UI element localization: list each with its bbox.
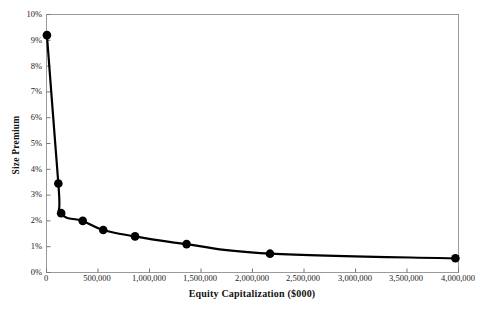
data-point — [78, 217, 87, 226]
data-point — [54, 179, 63, 188]
data-point — [131, 232, 140, 241]
series-line-size-premium — [47, 35, 456, 258]
data-point — [182, 240, 191, 249]
data-point — [99, 226, 108, 235]
size-premium-chart: Size Premium Equity Capitalization ($000… — [0, 0, 484, 311]
x-tick-marks — [47, 269, 459, 273]
data-point — [43, 31, 52, 40]
data-point — [266, 249, 275, 258]
plot-svg — [0, 0, 484, 311]
data-point — [57, 209, 66, 218]
plot-border — [47, 15, 459, 273]
data-point — [451, 254, 460, 263]
series-markers-size-premium — [43, 31, 460, 263]
